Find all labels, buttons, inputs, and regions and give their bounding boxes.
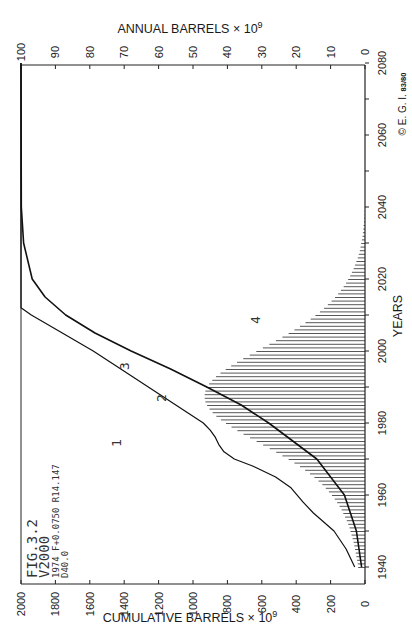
year-axis-title: YEARS bbox=[391, 295, 405, 337]
bottom-axis-tick-label: 2000 bbox=[15, 592, 27, 616]
figure-label: FIG.3.2 V2000 1974 F+0.0750 R14.147 D40.… bbox=[24, 464, 70, 578]
top-axis-tick-label: 90 bbox=[49, 46, 61, 58]
top-axis-tick-label: 30 bbox=[256, 46, 268, 58]
bottom-axis-tick-label: 1800 bbox=[49, 592, 61, 616]
year-axis-tick-label: 1940 bbox=[376, 555, 388, 579]
top-axis-tick-label: 20 bbox=[290, 46, 302, 58]
year-axis-tick-label: 1980 bbox=[376, 411, 388, 435]
bottom-axis-tick-label: 0 bbox=[359, 601, 371, 607]
top-axis-tick-label: 80 bbox=[84, 46, 96, 58]
bottom-axis-tick-label: 400 bbox=[290, 595, 302, 613]
year-axis-tick-label: 2080 bbox=[376, 51, 388, 75]
discovery-curve bbox=[21, 63, 355, 567]
top-axis-tick-label: 50 bbox=[187, 46, 199, 58]
year-axis-tick-label: 2020 bbox=[376, 267, 388, 291]
year-axis-tick-label: 2040 bbox=[376, 195, 388, 219]
curve-label-1: 1 bbox=[109, 439, 124, 447]
top-axis-tick-label: 10 bbox=[325, 46, 337, 58]
year-axis-tick-label: 1960 bbox=[376, 483, 388, 507]
top-axis-tick-label: 40 bbox=[221, 46, 233, 58]
annual-production-bars bbox=[205, 208, 365, 568]
year-axis-tick-label: 2060 bbox=[376, 123, 388, 147]
figure-d-param: D40.0 bbox=[60, 551, 70, 578]
figure-version: V2000 bbox=[36, 536, 52, 578]
top-axis-tick-label: 70 bbox=[118, 46, 130, 58]
top-axis-tick-label: 100 bbox=[15, 43, 27, 61]
chart: 1009080706050403020100200018001600140012… bbox=[0, 0, 412, 636]
cumulative-curves bbox=[21, 63, 362, 567]
top-axis-tick-label: 0 bbox=[359, 49, 371, 55]
production-curve bbox=[21, 63, 362, 567]
top-axis-tick-label: 60 bbox=[153, 46, 165, 58]
bottom-axis-tick-label: 200 bbox=[325, 595, 337, 613]
bottom-axis-tick-label: 1600 bbox=[84, 592, 96, 616]
bottom-axis-title: CUMULATIVE BARRELS × 109 bbox=[103, 609, 278, 625]
curve-label-2: 2 bbox=[154, 394, 169, 402]
copyright: © E. G. I. 83/80 bbox=[397, 73, 408, 136]
curve-label-4: 4 bbox=[248, 316, 263, 324]
curve-label-3: 3 bbox=[117, 362, 132, 370]
year-axis-tick-label: 2000 bbox=[376, 339, 388, 363]
top-axis-title: ANNUAL BARRELS × 109 bbox=[117, 20, 262, 36]
